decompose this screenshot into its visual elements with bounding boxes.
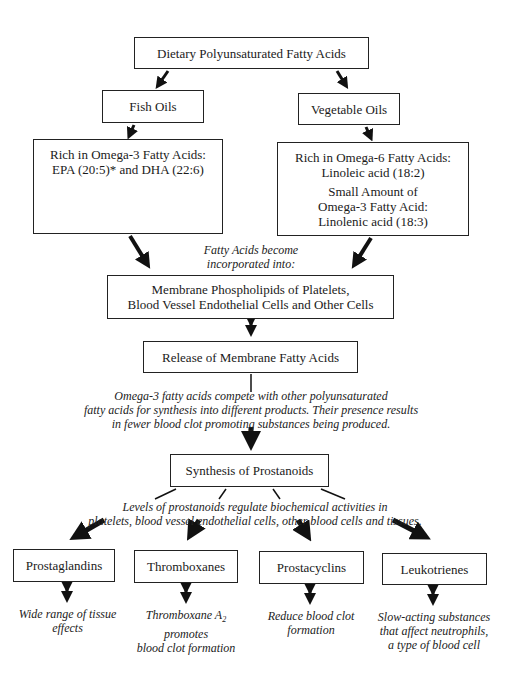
compete-note: Omega-3 fatty acids compete with other p…	[60, 389, 442, 431]
vegetable-oils-box: Vegetable Oils	[298, 93, 400, 125]
leukotrienes-effect-line-3: a type of blood cell	[368, 638, 500, 652]
membrane-phospholipids-box: Membrane Phospholipids of Platelets, Blo…	[107, 275, 394, 319]
prostacyclins-box: Prostacyclins	[259, 551, 364, 584]
thromboxanes-effect-line-3: blood clot formation	[128, 641, 244, 655]
prostaglandins-label: Prostaglandins	[26, 558, 103, 573]
arrow-top-to-veg-icon	[337, 71, 345, 84]
prostacyclins-effect-line-2: formation	[255, 623, 367, 637]
thromboxanes-effect: Thromboxane A2 promotes blood clot forma…	[128, 608, 244, 655]
incorporated-note-line-2: incorporated into:	[176, 257, 326, 271]
arrow-top-to-fish-icon	[159, 71, 168, 84]
omega3-small-line-1: Small Amount of	[328, 184, 418, 199]
omega6-rich-box: Rich in Omega-6 Fatty Acids: Linoleic ac…	[277, 142, 469, 236]
omega3-line-1: Rich in Omega-3 Fatty Acids:	[50, 147, 206, 162]
thromboxanes-box: Thromboxanes	[134, 550, 238, 583]
compete-note-line-1: Omega-3 fatty acids compete with other p…	[60, 389, 442, 403]
fish-oils-label: Fish Oils	[129, 99, 176, 114]
arrow-omega6-to-membrane-icon	[356, 238, 371, 262]
leukotrienes-effect-line-1: Slow-acting substances	[368, 610, 500, 624]
prostaglandins-box: Prostaglandins	[13, 549, 115, 582]
omega3-rich-box: Rich in Omega-3 Fatty Acids: EPA (20:5)*…	[33, 139, 223, 234]
prostaglandins-effect-line-1: Wide range of tissue	[10, 607, 125, 621]
incorporated-note: Fatty Acids become incorporated into:	[176, 243, 326, 271]
compete-note-line-3: in fewer blood clot promoting substances…	[60, 417, 442, 431]
thromboxanes-effect-line-1: Thromboxane A2	[128, 608, 244, 627]
prostaglandins-effect-line-2: effects	[10, 621, 125, 635]
thromboxane-a-text: Thromboxane A	[146, 608, 222, 622]
prostaglandins-effect: Wide range of tissue effects	[10, 607, 125, 635]
compete-note-line-2: fatty acids for synthesis into different…	[60, 403, 442, 417]
omega3-small-line-3: Linolenic acid (18:3)	[318, 214, 428, 229]
omega6-line-2: Linoleic acid (18:2)	[321, 165, 424, 180]
leukotrienes-label: Leukotrienes	[401, 562, 469, 577]
arrow-omega3-to-membrane-icon	[130, 236, 146, 262]
incorporated-note-line-1: Fatty Acids become	[176, 243, 326, 257]
omega3-small-line-2: Omega-3 Fatty Acid:	[318, 199, 428, 214]
arrow-veg-to-omega6-icon	[366, 127, 370, 136]
thromboxanes-label: Thromboxanes	[147, 559, 225, 574]
leukotrienes-effect-line-2: that affect neutrophils,	[368, 624, 500, 638]
omega3-line-2: EPA (20:5)* and DHA (22:6)	[52, 162, 204, 177]
release-label: Release of Membrane Fatty Acids	[162, 350, 339, 365]
synthesis-box: Synthesis of Prostanoids	[170, 454, 329, 487]
leukotrienes-box: Leukotrienes	[382, 553, 487, 585]
membrane-line-1: Membrane Phospholipids of Platelets,	[152, 282, 350, 297]
prostacyclins-effect: Reduce blood clot formation	[255, 609, 367, 637]
thromboxanes-effect-line-2: promotes	[128, 627, 244, 641]
levels-note-line-2: platelets, blood vessel endothelial cell…	[70, 514, 440, 528]
membrane-line-2: Blood Vessel Endothelial Cells and Other…	[127, 297, 373, 312]
synthesis-label: Synthesis of Prostanoids	[186, 463, 314, 478]
dietary-pufa-box: Dietary Polyunsaturated Fatty Acids	[134, 37, 369, 69]
omega6-line-1: Rich in Omega-6 Fatty Acids:	[295, 150, 451, 165]
vegetable-oils-label: Vegetable Oils	[311, 102, 387, 117]
fish-oils-box: Fish Oils	[102, 90, 204, 123]
prostacyclins-effect-line-1: Reduce blood clot	[255, 609, 367, 623]
leukotrienes-effect: Slow-acting substances that affect neutr…	[368, 610, 500, 652]
prostacyclins-label: Prostacyclins	[277, 560, 346, 575]
release-box: Release of Membrane Fatty Acids	[143, 341, 358, 373]
dietary-pufa-label: Dietary Polyunsaturated Fatty Acids	[157, 46, 346, 61]
levels-note: Levels of prostanoids regulate biochemic…	[70, 500, 440, 528]
arrow-fish-to-omega3-icon	[130, 125, 134, 134]
thromboxane-subscript: 2	[222, 615, 226, 624]
levels-note-line-1: Levels of prostanoids regulate biochemic…	[70, 500, 440, 514]
